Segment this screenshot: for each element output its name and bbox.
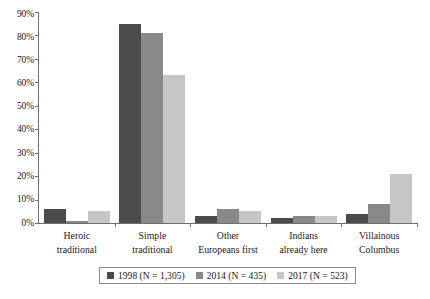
category-label-line: traditional [39, 243, 115, 257]
axis-tick [417, 223, 418, 227]
legend-item-2014[interactable]: 2014 (N = 435) [196, 270, 267, 281]
bar-groups [39, 12, 417, 223]
category-label-line: Simple [115, 229, 191, 243]
bar[interactable] [315, 216, 337, 223]
bar-set [341, 12, 417, 223]
category-label-line: traditional [115, 243, 191, 257]
y-axis-label-80: 80% [0, 32, 34, 42]
y-axis-label-60: 60% [0, 78, 34, 88]
category-label: Simpletraditional [115, 229, 191, 257]
grouped-bar-chart: 90% 80% 70% 60% 50% 40% 30% 20% 10% 0% H… [0, 0, 430, 299]
y-axis-tick [35, 223, 38, 224]
bar-group [39, 12, 115, 223]
bar[interactable] [195, 216, 217, 223]
legend-label-2014: 2014 (N = 435) [207, 270, 267, 281]
bar[interactable] [119, 24, 141, 223]
y-axis-label-90: 90% [0, 9, 34, 19]
y-axis-tick [35, 12, 38, 13]
y-axis-label-40: 40% [0, 124, 34, 134]
y-axis-tick [35, 82, 38, 83]
bar-group [115, 12, 191, 223]
category-label-line: Other [190, 229, 266, 243]
category-label-line: Columbus [341, 243, 417, 257]
y-axis-tick [35, 106, 38, 107]
bar[interactable] [163, 75, 185, 223]
dark-gray-swatch-icon [107, 272, 114, 279]
bar[interactable] [88, 211, 110, 223]
bar-group [190, 12, 266, 223]
category-label: VillainousColumbus [341, 229, 417, 257]
category-label-line: already here [266, 243, 342, 257]
y-axis-tick [35, 35, 38, 36]
y-axis-label-10: 10% [0, 194, 34, 204]
y-axis-tick [35, 153, 38, 154]
axis-tick [190, 223, 191, 227]
bar-set [190, 12, 266, 223]
category-label-line: Villainous [341, 229, 417, 243]
axis-tick [341, 223, 342, 227]
y-axis-label-30: 30% [0, 148, 34, 158]
axis-tick [266, 223, 267, 227]
y-axis-label-50: 50% [0, 101, 34, 111]
legend-label-1998: 1998 (N = 1,305) [118, 270, 185, 281]
medium-gray-swatch-icon [196, 272, 203, 279]
y-axis-tick [35, 59, 38, 60]
y-axis-labels: 90% 80% 70% 60% 50% 40% 30% 20% 10% 0% [0, 0, 34, 299]
bar[interactable] [217, 209, 239, 223]
bar[interactable] [271, 218, 293, 223]
legend-label-2017: 2017 (N = 523) [288, 270, 348, 281]
bar[interactable] [368, 204, 390, 223]
bar-set [266, 12, 342, 223]
axis-tick [115, 223, 116, 227]
category-label: OtherEuropeans first [190, 229, 266, 257]
bar[interactable] [44, 209, 66, 223]
bar-set [39, 12, 115, 223]
legend-item-2017[interactable]: 2017 (N = 523) [277, 270, 348, 281]
category-label-line: Indians [266, 229, 342, 243]
category-label: Indiansalready here [266, 229, 342, 257]
category-label-line: Heroic [39, 229, 115, 243]
category-label: Heroictraditional [39, 229, 115, 257]
bar[interactable] [346, 214, 368, 223]
y-axis-tick [35, 176, 38, 177]
y-axis-label-70: 70% [0, 55, 34, 65]
bar[interactable] [293, 216, 315, 223]
bar[interactable] [141, 33, 163, 223]
chart-legend: 1998 (N = 1,305) 2014 (N = 435) 2017 (N … [99, 267, 356, 284]
bar[interactable] [239, 211, 261, 223]
y-axis-tick [35, 129, 38, 130]
category-label-line: Europeans first [190, 243, 266, 257]
y-axis-label-0: 0% [0, 218, 34, 228]
y-axis-tick [35, 200, 38, 201]
light-gray-swatch-icon [277, 272, 284, 279]
bar-group [266, 12, 342, 223]
x-axis-line [38, 223, 418, 224]
x-axis-category-labels: HeroictraditionalSimpletraditionalOtherE… [39, 229, 417, 263]
bar[interactable] [66, 221, 88, 223]
legend-item-1998[interactable]: 1998 (N = 1,305) [107, 270, 185, 281]
bar-group [341, 12, 417, 223]
y-axis-label-20: 20% [0, 171, 34, 181]
bar-set [115, 12, 191, 223]
bar[interactable] [390, 174, 412, 223]
